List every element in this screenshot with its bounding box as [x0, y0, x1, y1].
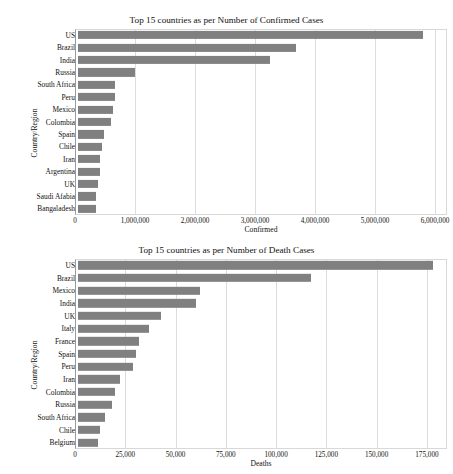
- bar-track: [78, 386, 447, 399]
- bar: [78, 168, 100, 176]
- bar-row: France: [12, 335, 447, 348]
- bar: [78, 413, 105, 421]
- bar: [78, 426, 100, 434]
- category-label: Mexico: [12, 105, 78, 114]
- bar-track: [78, 272, 447, 285]
- bar: [78, 337, 139, 345]
- top-cropped-text-artifact: [90, 0, 370, 9]
- bar-track: [78, 322, 447, 335]
- bar-row: Colombia: [12, 386, 447, 399]
- bar-track: [78, 335, 447, 348]
- category-label: Peru: [12, 362, 78, 371]
- category-label: US: [12, 31, 78, 40]
- bar: [78, 299, 196, 307]
- bar-row: Chile: [12, 424, 447, 437]
- bar: [78, 118, 111, 126]
- bar-row: Italy: [12, 322, 447, 335]
- bar-row: US: [12, 259, 447, 272]
- bar-track: [78, 411, 447, 424]
- x-tick-label: 0: [73, 451, 77, 459]
- bar-row: UK: [12, 310, 447, 323]
- bar-row: Peru: [12, 360, 447, 373]
- bar-rows: USBrazilMexicoIndiaUKItalyFranceSpainPer…: [12, 259, 447, 449]
- bar-row: South Africa: [12, 79, 447, 91]
- x-tick-label: 6,000,000: [421, 217, 450, 225]
- bar-row: Spain: [12, 128, 447, 140]
- category-label: Colombia: [12, 388, 78, 397]
- bar-track: [78, 348, 447, 361]
- category-label: Spain: [12, 350, 78, 359]
- x-tick-label: 75,000: [216, 451, 236, 459]
- bar-track: [78, 103, 447, 115]
- bar-row: Russia: [12, 66, 447, 78]
- category-label: US: [12, 261, 78, 270]
- bar-track: [78, 297, 447, 310]
- bar-track: [78, 153, 447, 165]
- bar-row: India: [12, 54, 447, 66]
- bar: [78, 439, 98, 447]
- plot-area: USBrazilMexicoIndiaUKItalyFranceSpainPer…: [12, 259, 447, 449]
- bar-row: South Africa: [12, 411, 447, 424]
- bar: [78, 312, 161, 320]
- bar-track: [78, 29, 447, 41]
- bar: [78, 180, 98, 188]
- category-label: Belgium: [12, 438, 78, 447]
- category-label: Iran: [12, 375, 78, 384]
- category-label: Bangaladesh: [12, 204, 78, 213]
- x-tick-label: 0: [73, 217, 77, 225]
- category-label: Russia: [12, 400, 78, 409]
- bar-row: Iran: [12, 373, 447, 386]
- bar-row: Russia: [12, 398, 447, 411]
- bar-row: Iran: [12, 153, 447, 165]
- x-tick-label: 100,000: [264, 451, 287, 459]
- bar: [78, 401, 112, 409]
- category-label: Brazil: [12, 274, 78, 283]
- bar-row: Bangaladesh: [12, 203, 447, 215]
- bar-track: [78, 398, 447, 411]
- bar-track: [78, 79, 447, 91]
- bar-track: [78, 203, 447, 215]
- bar-row: Brazil: [12, 41, 447, 53]
- bar: [78, 375, 120, 383]
- x-axis-label: Confirmed: [75, 225, 447, 234]
- bar: [78, 286, 200, 294]
- bar-track: [78, 284, 447, 297]
- bar: [78, 325, 149, 333]
- bar-track: [78, 141, 447, 153]
- bar-row: Colombia: [12, 116, 447, 128]
- bar: [78, 388, 115, 396]
- category-label: Spain: [12, 130, 78, 139]
- chart-death-cases: Top 15 countries as per Number of Death …: [0, 240, 453, 474]
- x-tick-label: 25,000: [115, 451, 135, 459]
- category-label: Chile: [12, 426, 78, 435]
- category-label: Colombia: [12, 118, 78, 127]
- bar: [78, 31, 423, 39]
- bar: [78, 205, 96, 213]
- x-tick-label: 1,000,000: [121, 217, 150, 225]
- bar-row: Spain: [12, 348, 447, 361]
- category-label: Saudi Afabia: [12, 192, 78, 201]
- category-label: Argentina: [12, 167, 78, 176]
- bar-row: UK: [12, 178, 447, 190]
- bar: [78, 130, 104, 138]
- chart-confirmed-cases: Top 15 countries as per Number of Confir…: [0, 10, 453, 240]
- bar: [78, 274, 311, 282]
- bar: [78, 350, 136, 358]
- bar-row: Peru: [12, 91, 447, 103]
- x-tick-label: 3,000,000: [241, 217, 270, 225]
- category-label: France: [12, 337, 78, 346]
- category-label: Peru: [12, 93, 78, 102]
- bar: [78, 155, 100, 163]
- bar: [78, 192, 96, 200]
- x-tick-label: 2,000,000: [181, 217, 210, 225]
- bar-track: [78, 165, 447, 177]
- category-label: Russia: [12, 68, 78, 77]
- chart-title: Top 15 countries as per Number of Death …: [0, 240, 453, 256]
- chart-plot-body: Country/Region USBrazilMexicoIndiaUKItal…: [0, 259, 453, 471]
- category-label: Mexico: [12, 286, 78, 295]
- plot-area: USBrazilIndiaRussiaSouth AfricaPeruMexic…: [12, 29, 447, 215]
- figure-page: Top 15 countries as per Number of Confir…: [0, 0, 453, 474]
- category-label: UK: [12, 312, 78, 321]
- category-label: India: [12, 56, 78, 65]
- bar-track: [78, 128, 447, 140]
